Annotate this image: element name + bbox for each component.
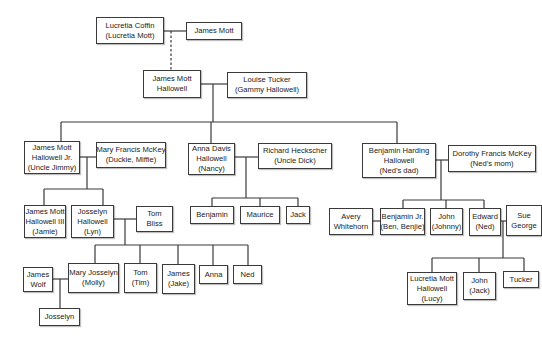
person-name-line: (Jake) [168,279,189,289]
person-name-line: (Lyn) [84,227,101,237]
person-name-line: Hallowell [77,217,107,227]
person-box-anna-davis-hallowell: Anna DavisHallowell(Nancy) [188,143,235,175]
person-name-line: (Ned’s mom) [470,159,513,169]
person-name-line: (Uncle Dick) [274,156,315,166]
person-name-line: Hallowell Jr. [32,153,73,163]
person-name-line: Hallowell [384,156,414,166]
person-name-line: Anna Davis [192,144,231,154]
person-name-line: Louise Tucker [243,75,290,85]
person-name-line: Jack [290,210,306,220]
person-name-line: Hallowell III [26,217,65,227]
person-box-jack: Jack [286,206,310,224]
person-name-line: Tom [147,209,161,219]
person-box-avery-whitehorn: AveryWhitehorn [329,208,373,235]
person-box-mary-francis-mckey: Mary Francis McKey(Duckie, Miffie) [96,142,166,168]
person-name-line: Avery [341,212,360,222]
person-box-dorothy-francis-mckey: Dorothy Francis McKey(Ned’s mom) [448,145,536,172]
person-box-lucretia-mott-hallowell: Lucretia MottHallowell(Lucy) [407,272,457,305]
person-name-line: James Mott [32,143,71,153]
person-box-benjamin-jr: Benjamin Jr.(Ben, Benjie) [380,208,425,235]
person-box-tom-tim: Tom(Tim) [124,263,157,293]
person-box-john-johnny: John(Johnny) [430,208,463,235]
person-name-line: (Gammy Hallowell) [235,85,299,95]
person-name-line: James Mott [152,74,191,84]
person-box-james-jake: James(Jake) [162,264,195,294]
person-name-line: (Lucy) [421,294,442,304]
person-name-line: (Ben, Benjie) [381,222,425,232]
person-name-line: (Molly) [82,278,105,288]
person-name-line: Tucker [510,275,533,285]
person-box-benjamin: Benjamin [190,206,234,224]
person-name-line: Hallowell [196,154,226,164]
person-box-james-mott-hallowell-iii: James MottHallowell III(Jamie) [24,205,66,238]
person-name-line: (Johnny) [432,222,462,232]
person-name-line: Edward [472,212,498,222]
person-name-line: Sue [517,211,531,221]
person-box-tom-bliss: TomBliss [136,206,173,232]
person-box-josselyn-hallowell: JosselynHallowell(Lyn) [71,205,114,238]
person-name-line: Whitehorn [334,222,369,232]
person-name-line: James [27,270,49,280]
person-name-line: Josselyn [78,207,108,217]
person-box-lucretia-coffin: Lucretia Coffin(Lucretia Mott) [96,17,164,44]
person-box-josselyn: Josselyn [39,308,80,326]
person-name-line: (Ned) [476,222,495,232]
person-name-line: Bliss [146,219,162,229]
person-name-line: Lucretia Mott [410,274,454,284]
person-name-line: (Lucretia Mott) [106,31,155,41]
person-name-line: (Uncle Jimmy) [28,163,77,173]
person-name-line: John [438,212,454,222]
person-box-ned: Ned [233,265,262,284]
person-name-line: Benjamin [196,210,228,220]
person-box-richard-heckscher: Richard Heckscher(Uncle Dick) [258,143,332,169]
person-box-james-mott-hallowell: James MottHallowell [143,70,201,98]
person-box-louise-tucker: Louise Tucker(Gammy Hallowell) [227,72,307,98]
person-name-line: George [511,221,536,231]
person-name-line: (Tim) [132,278,149,288]
person-box-john-jack: John(Jack) [463,272,496,300]
person-name-line: Wolf [30,280,45,290]
person-name-line: Tom [133,268,147,278]
person-box-james-mott-hallowell-jr: James MottHallowell Jr.(Uncle Jimmy) [24,141,80,174]
person-name-line: James [167,269,189,279]
person-box-james-wolf: JamesWolf [23,267,53,292]
person-name-line: (Nancy) [198,164,225,174]
person-name-line: (Jack) [469,286,490,296]
person-box-anna: Anna [199,265,228,284]
person-name-line: Mary Francis McKey [96,145,165,155]
person-name-line: (Jamie) [32,227,57,237]
person-name-line: Lucretia Coffin [106,21,155,31]
person-box-sue-george: SueGeorge [506,205,542,236]
person-name-line: (Ned’s dad) [379,166,418,176]
person-name-line: John [471,276,487,286]
person-name-line: James Mott [194,26,233,36]
person-name-line: Benjamin Harding [369,146,429,156]
person-name-line: Benjamin Jr. [382,212,424,222]
person-name-line: Hallowell [417,284,447,294]
person-name-line: Josselyn [45,312,75,322]
person-name-line: Mary Josselyn [69,268,118,278]
person-box-edward-ned: Edward(Ned) [469,208,501,236]
person-box-benjamin-harding-hallowell: Benjamin HardingHallowell(Ned’s dad) [362,143,436,178]
person-name-line: Richard Heckscher [263,146,327,156]
person-name-line: Ned [241,270,255,280]
person-name-line: Maurice [246,210,273,220]
person-name-line: James Mott [25,207,64,217]
person-name-line: Hallowell [157,84,187,94]
person-box-tucker: Tucker [503,271,539,288]
person-name-line: (Duckie, Miffie) [106,155,157,165]
person-name-line: Anna [205,270,223,280]
person-name-line: Dorothy Francis McKey [453,149,532,159]
person-box-maurice: Maurice [240,206,280,224]
person-box-james-mott: James Mott [186,22,242,40]
person-box-mary-josselyn: Mary Josselyn(Molly) [68,263,119,293]
